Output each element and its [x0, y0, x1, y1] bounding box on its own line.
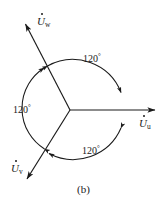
angle-label-top-value: 120	[83, 53, 98, 64]
angle-label-bottom-degree: °	[97, 144, 100, 152]
overdot-v	[15, 160, 17, 162]
angle-label-left-degree: °	[28, 103, 31, 111]
phasor-label-v-subscript: v	[19, 167, 23, 176]
phasor-label-u: Uu	[139, 118, 151, 129]
angle-label-left-value: 120	[13, 104, 28, 115]
figure-caption: (b)	[0, 184, 167, 195]
angle-label-bottom-value: 120	[82, 145, 97, 156]
phasor-label-u-symbol: U	[139, 117, 147, 129]
angle-label-bottom: 120°	[82, 145, 100, 156]
phasor-vector-v	[27, 110, 70, 179]
overdot-u	[143, 115, 145, 117]
phasor-vector-w	[26, 24, 71, 110]
phasor-label-v-symbol: U	[11, 162, 19, 174]
phasor-label-w: Uw	[37, 16, 50, 27]
phasor-diagram-svg	[0, 0, 167, 205]
angle-label-top: 120°	[83, 53, 101, 64]
phasor-label-w-symbol: U	[37, 15, 45, 27]
phasor-label-u-subscript: u	[147, 122, 151, 131]
angle-label-top-degree: °	[98, 52, 101, 60]
phasor-label-v: Uv	[11, 163, 23, 174]
overdot-w	[41, 13, 43, 15]
figure-panel: Uw Uu Uv 120° 120° 120° (b)	[0, 0, 167, 205]
angle-label-left: 120°	[13, 104, 31, 115]
phasor-label-w-subscript: w	[45, 20, 50, 29]
